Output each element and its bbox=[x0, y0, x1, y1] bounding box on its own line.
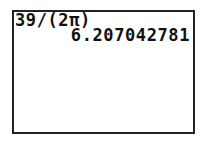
calculator-screen: 39/(2π) 6.207042781 bbox=[12, 10, 195, 134]
expression-result: 6.207042781 bbox=[71, 28, 190, 42]
